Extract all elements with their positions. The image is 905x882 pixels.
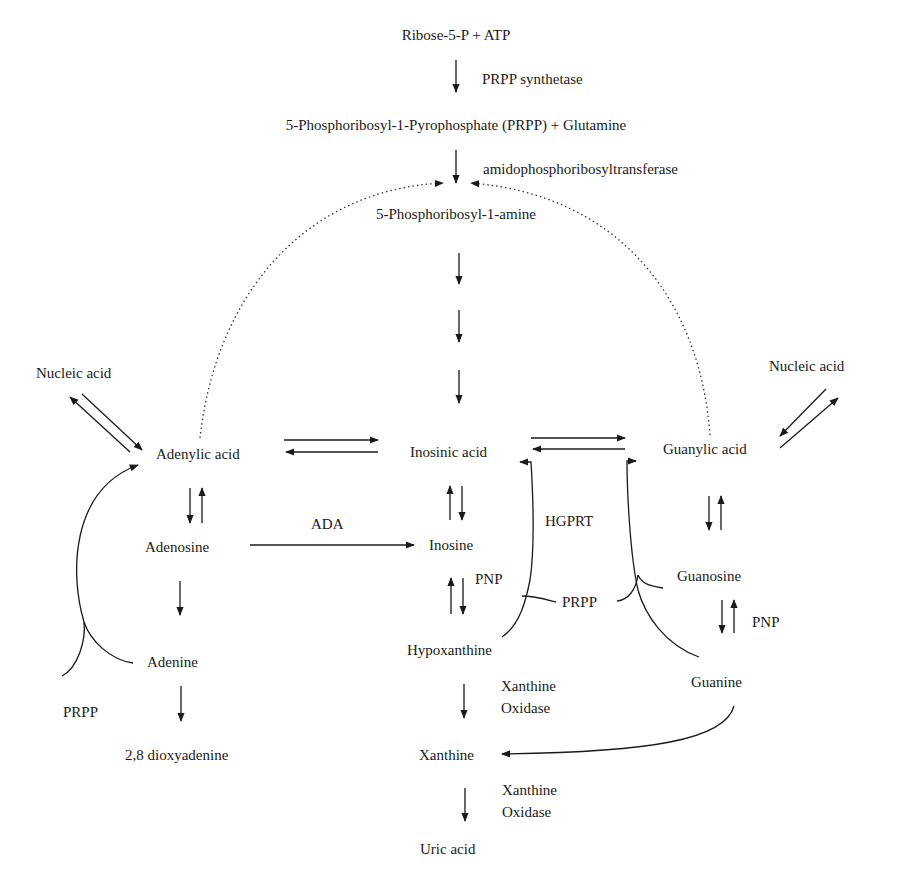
enzyme-amidophosphoribosyltransferase: amidophosphoribosyltransferase bbox=[483, 161, 678, 177]
node-dioxyadenine: 2,8 dioxyadenine bbox=[125, 747, 229, 763]
node-inosine: Inosine bbox=[429, 537, 474, 553]
adenylic-inosinic-arrows bbox=[284, 440, 378, 452]
enzyme-ada: ADA bbox=[311, 516, 344, 532]
inosinic-inosine-arrows bbox=[450, 486, 462, 520]
node-xanthine: Xanthine bbox=[419, 747, 474, 763]
purine-metabolism-diagram: Ribose-5-P + ATP 5-Phosphoribosyl-1-Pyro… bbox=[0, 0, 905, 882]
node-hypoxanthine: Hypoxanthine bbox=[407, 642, 492, 658]
node-phosphoribosylamine: 5-Phosphoribosyl-1-amine bbox=[376, 206, 536, 222]
enzyme-hgprt: HGPRT bbox=[545, 513, 593, 529]
enzyme-xanthine-oxidase-2-line1: Xanthine bbox=[502, 782, 557, 798]
enzyme-pnp-inosine: PNP bbox=[475, 571, 503, 587]
guanylic-guanosine-arrows bbox=[709, 496, 721, 530]
node-nucleic-acid-right: Nucleic acid bbox=[769, 358, 845, 374]
enzyme-xanthine-oxidase-1-line1: Xanthine bbox=[501, 678, 556, 694]
node-uric-acid: Uric acid bbox=[420, 841, 476, 857]
main-pathway-arrows bbox=[456, 60, 459, 403]
node-guanylic-acid: Guanylic acid bbox=[663, 441, 747, 457]
enzyme-xanthine-oxidase-2-line2: Oxidase bbox=[502, 804, 551, 820]
enzyme-prpp-synthetase: PRPP synthetase bbox=[482, 71, 583, 87]
node-adenylic-acid: Adenylic acid bbox=[156, 446, 240, 462]
node-prpp-glutamine: 5-Phosphoribosyl-1-Pyrophosphate (PRPP) … bbox=[286, 117, 627, 134]
node-inosinic-acid: Inosinic acid bbox=[410, 444, 488, 460]
adenylic-adenosine-arrows bbox=[190, 488, 202, 523]
inosinic-guanylic-arrows bbox=[531, 438, 625, 449]
node-adenine: Adenine bbox=[147, 654, 198, 670]
node-guanosine: Guanosine bbox=[677, 568, 741, 584]
nucleic-acid-left-arrows bbox=[70, 394, 142, 452]
node-ribose: Ribose-5-P + ATP bbox=[402, 27, 511, 43]
hgprt-guanine-curve bbox=[627, 461, 699, 657]
node-nucleic-acid-left: Nucleic acid bbox=[36, 365, 112, 381]
adenine-salvage-curve bbox=[62, 465, 138, 676]
hgprt-hypoxanthine-curve bbox=[502, 462, 533, 637]
node-adenosine: Adenosine bbox=[145, 539, 209, 555]
enzyme-prpp-center: PRPP bbox=[562, 594, 597, 610]
inosine-hypoxanthine-arrows bbox=[451, 578, 463, 614]
nucleic-acid-right-arrows bbox=[780, 389, 838, 448]
enzyme-xanthine-oxidase-1-line2: Oxidase bbox=[501, 700, 550, 716]
enzyme-prpp-left: PRPP bbox=[63, 704, 98, 720]
node-guanine: Guanine bbox=[691, 674, 742, 690]
enzyme-pnp-guanosine: PNP bbox=[752, 614, 780, 630]
guanosine-guanine-arrows bbox=[722, 600, 734, 633]
